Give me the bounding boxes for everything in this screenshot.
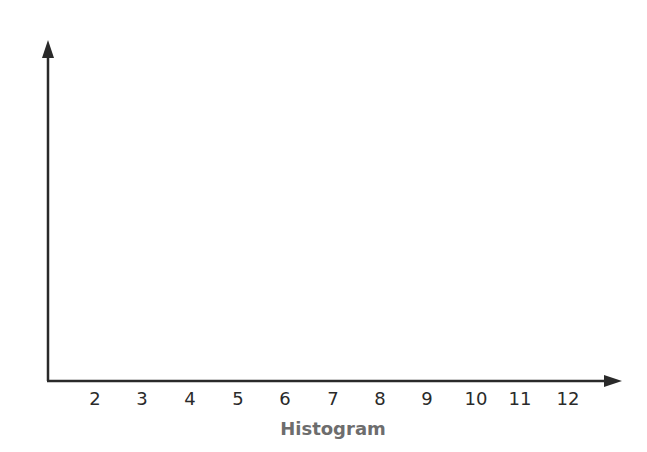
x-tick-label: 2	[89, 388, 100, 409]
x-tick-label: 5	[232, 388, 243, 409]
x-tick-label: 3	[136, 388, 147, 409]
x-tick-label: 10	[465, 388, 488, 409]
x-tick-label: 9	[421, 388, 432, 409]
chart-axes	[0, 0, 647, 452]
x-tick-label: 6	[279, 388, 290, 409]
x-tick-label: 7	[327, 388, 338, 409]
x-tick-label: 11	[509, 388, 532, 409]
y-axis-arrow-icon	[42, 40, 54, 58]
x-tick-label: 12	[557, 388, 580, 409]
x-tick-label: 8	[374, 388, 385, 409]
x-tick-label: 4	[184, 388, 195, 409]
chart-caption: Histogram	[280, 418, 386, 439]
x-axis-arrow-icon	[604, 375, 622, 387]
